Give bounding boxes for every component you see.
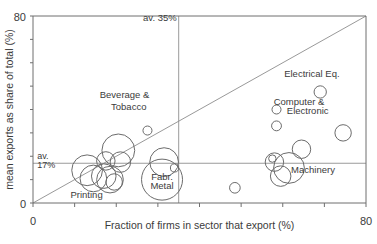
- x-axis-tick-label-max: 80: [360, 215, 372, 227]
- annotation-printing: Printing: [70, 189, 102, 200]
- annotation-electrical-eq: Electrical Eq.: [284, 68, 339, 79]
- y-axis-tick-label-max: 80: [14, 11, 26, 23]
- annotation-computer-line2: Electronic: [287, 105, 329, 116]
- annotation-av-17: 17%: [37, 160, 55, 170]
- bubble-beverage-tobacco[interactable]: [143, 126, 152, 135]
- annotation-beverage-line2: Tobacco: [111, 101, 146, 112]
- bubble-point[interactable]: [110, 152, 131, 173]
- bubble-point[interactable]: [102, 134, 135, 167]
- y-axis-title: mean exports as share of total (%): [3, 29, 15, 190]
- annotation-machinery: Machinery: [291, 164, 335, 175]
- bubble-printing[interactable]: [72, 155, 103, 186]
- bubble-point[interactable]: [230, 182, 241, 193]
- x-axis-title: Fraction of firms in sector that export …: [105, 219, 295, 231]
- bubble-point[interactable]: [292, 140, 310, 158]
- x-axis-tick-label-min: 0: [30, 215, 36, 227]
- chart-canvas: 800080Fraction of firms in sector that e…: [0, 0, 377, 244]
- bubble-computer-electronic[interactable]: [335, 125, 351, 141]
- bubble-chart-figure: 800080Fraction of firms in sector that e…: [0, 0, 377, 244]
- annotation-av-35: av. 35%: [143, 12, 177, 23]
- y-axis-tick-label-min: 0: [20, 198, 26, 210]
- annotation-fabr-line2: Metal: [150, 180, 173, 191]
- annotation-beverage-line1: Beverage &: [100, 89, 150, 100]
- bubble-point[interactable]: [272, 121, 282, 131]
